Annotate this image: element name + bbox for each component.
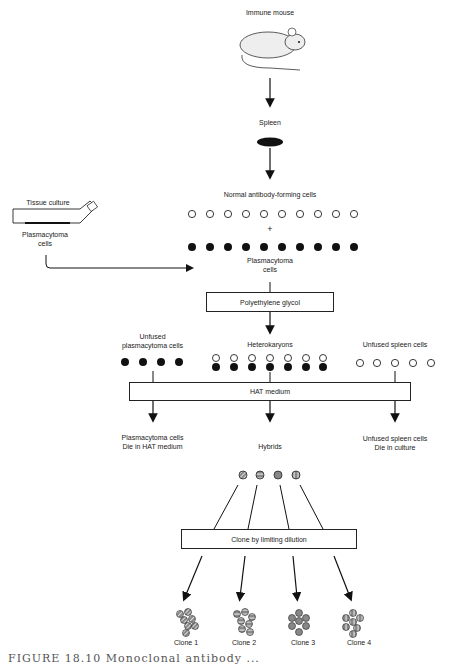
clone-2-label: Clone 2 [224, 638, 264, 647]
spleen-label: Spleen [240, 118, 300, 127]
unfused-spleen-label: Unfused spleen cells [350, 340, 440, 349]
clone-3-cluster [289, 610, 310, 636]
plasmacytoma-label-line1: Plasmacytoma [230, 256, 310, 265]
tissue-culture-label: Tissue culture [18, 198, 78, 207]
clone-2-cluster [234, 609, 256, 636]
plasmacytoma-die-label: Plasmacytoma cells Die in HAT medium [110, 433, 195, 451]
unfused-plasmacytoma-row [121, 358, 183, 366]
mouse-icon [240, 28, 305, 70]
polyethylene-glycol-box: Polyethylene glycol [206, 292, 334, 312]
clone-1-label: Clone 1 [166, 638, 206, 647]
plasmacytoma-cells-row [188, 243, 358, 251]
normal-cells-label: Normal antibody-forming cells [200, 190, 340, 199]
clone-arrows [185, 556, 350, 597]
spleen-die-line2: Die in culture [350, 443, 440, 452]
diagram-canvas [0, 0, 451, 665]
spleen-die-line1: Unfused spleen cells [350, 434, 440, 443]
unfused-plasma-line2: plasmacytoma cells [110, 341, 195, 350]
plasma-die-line2: Die in HAT medium [110, 442, 195, 451]
tc-plasmacytoma-label: Plasmacytoma cells [10, 230, 80, 248]
hybrids-label: Hybrids [240, 442, 300, 451]
clone-3-label: Clone 3 [283, 638, 323, 647]
unfused-plasma-line1: Unfused [110, 332, 195, 341]
plasmacytoma-label-line2: cells [230, 265, 310, 274]
spleen-die-label: Unfused spleen cells Die in culture [350, 434, 440, 452]
unfused-plasmacytoma-label: Unfused plasmacytoma cells [110, 332, 195, 350]
plus-sign: + [260, 225, 280, 234]
tc-plasmacytoma-line1: Plasmacytoma [10, 230, 80, 239]
heterokaryons-label: Heterokaryons [230, 340, 310, 349]
hybrid-cells-row [239, 471, 300, 479]
plasmacytoma-label: Plasmacytoma cells [230, 256, 310, 274]
immune-mouse-label: Immune mouse [240, 8, 300, 17]
tc-plasmacytoma-line2: cells [10, 239, 80, 248]
hybrid-connector-lines [214, 485, 323, 529]
figure-caption: FIGURE 18.10 Monoclonal antibody ... [8, 652, 260, 665]
hat-medium-box: HAT medium [129, 382, 411, 401]
heterokaryons-row [212, 355, 327, 372]
clone-4-label: Clone 4 [339, 638, 379, 647]
clone-1-cluster [177, 609, 199, 637]
spleen-icon [257, 138, 283, 147]
unfused-spleen-row [356, 359, 434, 366]
normal-cells-row [188, 210, 357, 217]
clone-limiting-dilution-box: Clone by limiting dilution [181, 529, 357, 549]
clone-4-cluster [343, 610, 364, 638]
plasma-die-line1: Plasmacytoma cells [110, 433, 195, 442]
